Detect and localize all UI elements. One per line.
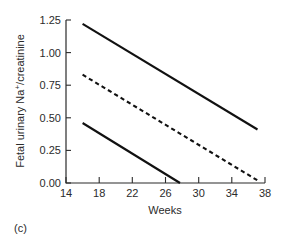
x-tick-labels: 14 18 22 26 30 34 38 [60,187,271,199]
x-tick-marks [66,177,265,183]
x-tick-label: 22 [126,187,138,199]
y-axis-title-trail: /creatinine [14,34,26,85]
figure-panel: 0.00 0.25 0.50 0.75 1.00 1.25 14 18 22 2… [0,0,291,241]
x-axis-title: Weeks [148,204,182,216]
y-tick-label: 0.25 [40,144,61,156]
series-mean [83,75,258,181]
y-tick-label: 0.00 [40,177,61,189]
x-tick-label: 30 [193,187,205,199]
line-chart: 0.00 0.25 0.50 0.75 1.00 1.25 14 18 22 2… [0,0,291,241]
y-tick-label: 0.75 [40,79,61,91]
x-tick-label: 34 [226,187,238,199]
series-upper-limit [83,24,258,130]
y-tick-label: 1.25 [40,14,61,26]
y-axis-title: Fetal urinary Na+/creatinine [13,34,27,168]
x-tick-label: 38 [259,187,271,199]
y-tick-marks [66,20,71,183]
y-axis-title-lead: Fetal urinary Na [14,89,26,168]
panel-caption: (c) [14,222,27,234]
y-tick-label: 1.00 [40,47,61,59]
data-series [83,24,258,183]
x-tick-label: 26 [159,187,171,199]
series-lower-limit [83,123,180,183]
y-tick-labels: 0.00 0.25 0.50 0.75 1.00 1.25 [40,14,61,189]
x-tick-label: 14 [60,187,72,199]
axis-frame [66,20,265,183]
y-tick-label: 0.50 [40,112,61,124]
axes [66,20,265,183]
x-tick-label: 18 [93,187,105,199]
